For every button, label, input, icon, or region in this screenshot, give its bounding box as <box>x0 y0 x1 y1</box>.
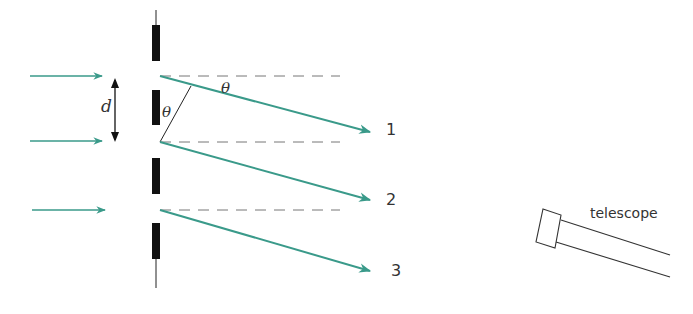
slit-bar <box>152 90 160 125</box>
dashed-normals <box>160 76 340 210</box>
grating <box>152 10 160 288</box>
slit-bar <box>152 223 160 259</box>
ray-2 <box>160 142 370 200</box>
telescope-label: telescope <box>590 205 658 221</box>
spacing-arrow: d <box>101 78 119 142</box>
angle-label-top: θ <box>221 79 230 97</box>
spacing-label: d <box>101 96 112 116</box>
telescope: telescope <box>536 205 670 277</box>
ray-label-3: 3 <box>391 261 401 280</box>
ray-3 <box>160 210 370 271</box>
diffracted-rays <box>160 76 370 271</box>
slit-bar <box>152 25 160 61</box>
ray-label-2: 2 <box>386 190 396 209</box>
angle-label-inner: θ <box>162 103 171 121</box>
ray-label-1: 1 <box>386 120 396 139</box>
slit-bar <box>152 158 160 194</box>
ray-1 <box>160 76 370 132</box>
incident-rays <box>30 76 105 210</box>
diffraction-diagram: d θ θ 1 2 3 telescope <box>0 0 693 314</box>
